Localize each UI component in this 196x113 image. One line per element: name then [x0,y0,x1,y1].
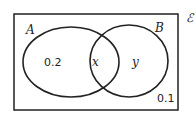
set-b-label: B [154,21,164,35]
venn-diagram: ℰ A B 0.2 x y 0.1 [0,0,196,113]
region-a-only-value: 0.2 [44,56,62,69]
set-b-circle [90,25,168,97]
universal-set-label: ℰ [186,11,195,25]
set-a-circle [23,27,119,97]
region-outside-value: 0.1 [157,92,175,105]
region-b-only-value: y [131,55,139,69]
region-a-and-b-value: x [92,55,99,69]
set-a-label: A [25,23,35,37]
